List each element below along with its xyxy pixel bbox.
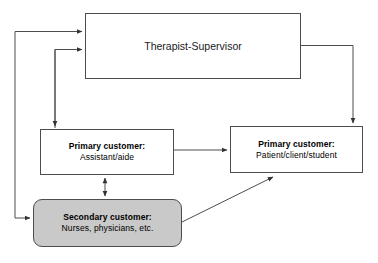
node-primary-customer-assistant-title: Primary customer: [69, 141, 146, 152]
node-primary-customer-patient-title: Primary customer: [258, 139, 335, 150]
node-therapist-supervisor[interactable]: Therapist-Supervisor [85, 13, 301, 79]
node-secondary-customer-title: Secondary customer: [63, 212, 152, 223]
connector-assistant-to-supervisor [55, 50, 82, 129]
connector-supervisor-to-patient [301, 46, 353, 124]
node-therapist-supervisor-label: Therapist-Supervisor [144, 40, 241, 53]
connector-secondary-to-patient [182, 177, 273, 222]
node-primary-customer-assistant-subtitle: Assistant/aide [80, 152, 134, 163]
connector-secondary-to-supervisor [15, 32, 82, 219]
diagram-canvas: Therapist-Supervisor Primary customer: A… [0, 0, 378, 263]
node-primary-customer-patient[interactable]: Primary customer: Patient/client/student [230, 126, 363, 173]
node-secondary-customer-subtitle: Nurses, physicians, etc. [62, 223, 154, 234]
node-primary-customer-assistant[interactable]: Primary customer: Assistant/aide [40, 129, 174, 175]
node-secondary-customer[interactable]: Secondary customer: Nurses, physicians, … [33, 199, 182, 247]
node-primary-customer-patient-subtitle: Patient/client/student [256, 150, 337, 161]
